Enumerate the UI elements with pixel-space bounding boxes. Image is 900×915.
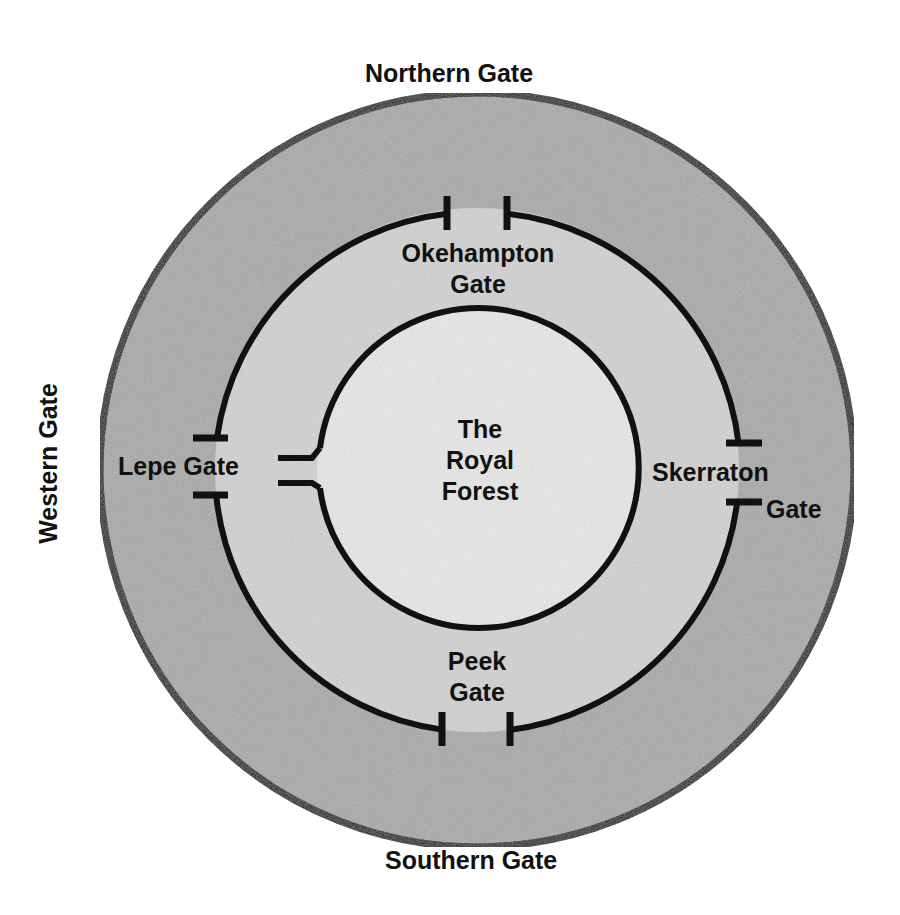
royal-forest-label: The Royal Forest [420, 414, 540, 507]
western-gate-label: Western Gate [33, 369, 64, 559]
skerraton-label: Skerraton [652, 457, 769, 488]
northern-gate-label: Northern Gate [365, 58, 533, 89]
okehampton-gate-label: Okehampton Gate [378, 238, 578, 300]
southern-gate-label: Southern Gate [385, 845, 557, 876]
peek-gate-label: Peek Gate [427, 646, 527, 708]
lepe-gate-label: Lepe Gate [118, 451, 239, 482]
skerraton-gate-word: Gate [766, 494, 822, 525]
